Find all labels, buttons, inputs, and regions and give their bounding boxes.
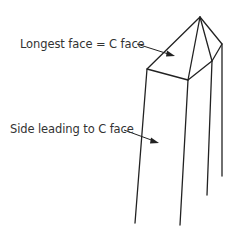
crystal-drawing [0, 0, 234, 235]
prism-edge-left [135, 69, 147, 223]
c-face-label: Longest face = C face [20, 37, 145, 51]
side-label: Side leading to C face [10, 122, 134, 136]
c-face-outline [147, 17, 200, 80]
prism-edge-right [207, 61, 212, 195]
far-right-facet-outline [200, 17, 222, 61]
crystal-diagram: Longest face = C face Side leading to C … [0, 0, 234, 235]
prism-edge-middle [180, 80, 188, 225]
